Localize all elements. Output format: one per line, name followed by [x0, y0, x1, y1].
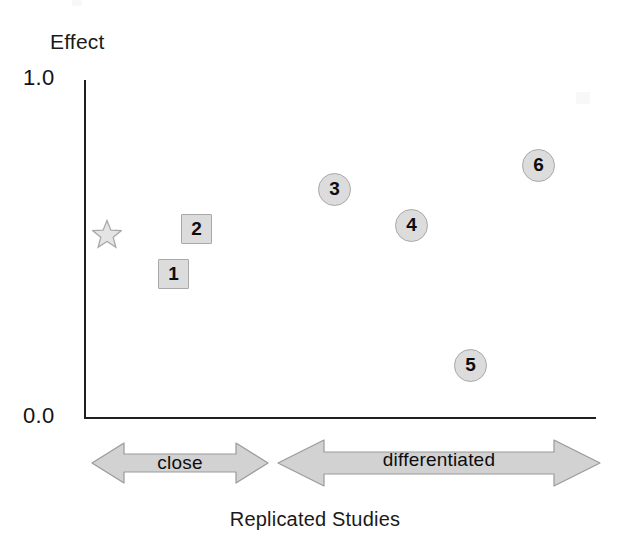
data-marker-3: 3	[318, 173, 351, 206]
data-marker-6: 6	[522, 149, 555, 182]
data-marker-5-label: 5	[465, 355, 476, 374]
data-marker-5: 5	[454, 349, 487, 382]
x-axis-title: Replicated Studies	[0, 508, 630, 531]
y-axis-tick-top: 1.0	[23, 65, 54, 91]
data-marker-star	[92, 219, 122, 249]
scan-artifact-top	[72, 0, 82, 6]
data-marker-4-label: 4	[406, 215, 417, 234]
data-marker-3-label: 3	[329, 179, 340, 198]
x-axis-line	[84, 417, 596, 419]
data-marker-1-label: 1	[168, 264, 179, 283]
data-marker-4: 4	[395, 209, 428, 242]
y-axis-line	[84, 80, 86, 419]
scan-artifact-right	[576, 92, 590, 104]
chart-figure: Effect 1.0 0.0 1 2 3 4 5 6 close	[0, 0, 630, 545]
y-axis-title: Effect	[50, 30, 105, 54]
data-marker-6-label: 6	[533, 155, 544, 174]
data-marker-2: 2	[181, 214, 212, 244]
y-axis-tick-bottom: 0.0	[23, 403, 54, 429]
data-marker-2-label: 2	[191, 219, 202, 238]
annotation-arrow-close: close	[90, 440, 270, 486]
annotation-arrow-differentiated: differentiated	[276, 437, 602, 483]
data-marker-1: 1	[158, 259, 189, 289]
